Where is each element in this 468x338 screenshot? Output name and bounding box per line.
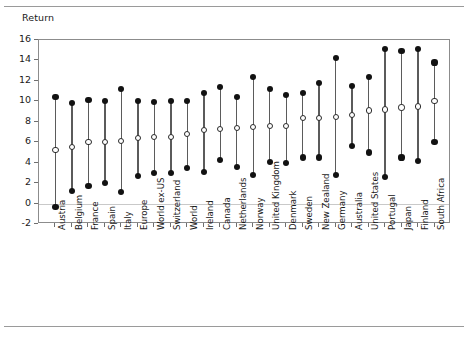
marker-mid[interactable] <box>184 131 190 137</box>
marker-mid[interactable] <box>366 107 372 113</box>
x-tick <box>219 223 220 227</box>
x-tick <box>335 223 336 227</box>
marker-low[interactable] <box>382 174 388 180</box>
marker-mid[interactable] <box>283 123 289 129</box>
marker-mid[interactable] <box>135 135 141 141</box>
marker-mid[interactable] <box>85 139 91 145</box>
range-connector-line <box>384 49 385 177</box>
marker-mid[interactable] <box>102 139 108 145</box>
x-tick <box>203 223 204 227</box>
x-tick <box>71 223 72 227</box>
x-tick <box>318 223 319 227</box>
x-tick <box>401 223 402 227</box>
marker-mid[interactable] <box>201 127 207 133</box>
x-tick <box>384 223 385 227</box>
marker-low[interactable] <box>151 170 157 176</box>
marker-high[interactable] <box>135 98 141 104</box>
marker-high[interactable] <box>184 98 190 104</box>
y-tick-label: 14 <box>5 54 31 64</box>
marker-high[interactable] <box>267 86 273 92</box>
marker-low[interactable] <box>217 157 223 163</box>
marker-high[interactable] <box>349 83 355 89</box>
marker-low[interactable] <box>102 180 108 186</box>
marker-mid[interactable] <box>349 112 355 118</box>
marker-mid[interactable] <box>382 106 388 112</box>
marker-mid[interactable] <box>267 123 273 129</box>
marker-mid[interactable] <box>415 103 421 109</box>
x-tick <box>302 223 303 227</box>
marker-high[interactable] <box>217 84 223 90</box>
x-tick <box>351 223 352 227</box>
marker-mid[interactable] <box>151 134 157 140</box>
range-connector-line <box>302 93 303 157</box>
x-tick <box>137 223 138 227</box>
marker-low[interactable] <box>283 160 289 166</box>
marker-low[interactable] <box>333 172 339 178</box>
marker-high[interactable] <box>234 94 240 100</box>
marker-high[interactable] <box>69 100 75 106</box>
marker-low[interactable] <box>201 169 207 175</box>
marker-low[interactable] <box>52 204 58 210</box>
marker-low[interactable] <box>267 159 273 165</box>
marker-mid[interactable] <box>333 114 339 120</box>
marker-low[interactable] <box>300 154 306 160</box>
x-tick <box>153 223 154 227</box>
marker-low[interactable] <box>431 139 437 145</box>
marker-high[interactable] <box>250 74 256 80</box>
marker-low[interactable] <box>415 158 421 164</box>
marker-mid[interactable] <box>168 134 174 140</box>
x-tick <box>186 223 187 227</box>
y-tick-label: 2 <box>5 177 31 187</box>
marker-low[interactable] <box>184 165 190 171</box>
marker-high[interactable] <box>151 99 157 105</box>
marker-high[interactable] <box>283 92 289 98</box>
marker-mid[interactable] <box>217 126 223 132</box>
marker-low[interactable] <box>250 172 256 178</box>
y-tick-label: 6 <box>5 136 31 146</box>
marker-high[interactable] <box>366 74 372 80</box>
marker-mid[interactable] <box>52 147 58 153</box>
marker-mid[interactable] <box>398 104 404 110</box>
marker-low[interactable] <box>398 154 404 160</box>
y-tick-label: 12 <box>5 75 31 85</box>
marker-high[interactable] <box>168 98 174 104</box>
marker-high[interactable] <box>415 46 421 52</box>
marker-high[interactable] <box>201 90 207 96</box>
x-tick <box>368 223 369 227</box>
marker-high[interactable] <box>118 86 124 92</box>
marker-mid[interactable] <box>316 115 322 121</box>
marker-high[interactable] <box>333 55 339 61</box>
x-tick <box>87 223 88 227</box>
marker-low[interactable] <box>234 164 240 170</box>
marker-low[interactable] <box>69 188 75 194</box>
marker-low[interactable] <box>118 189 124 195</box>
marker-low[interactable] <box>85 183 91 189</box>
marker-mid[interactable] <box>250 124 256 130</box>
x-tick <box>104 223 105 227</box>
marker-high[interactable] <box>85 97 91 103</box>
marker-high[interactable] <box>52 94 58 100</box>
marker-low[interactable] <box>135 173 141 179</box>
marker-low[interactable] <box>168 170 174 176</box>
x-tick <box>170 223 171 227</box>
marker-low[interactable] <box>316 154 322 160</box>
marker-mid[interactable] <box>234 125 240 131</box>
range-connector-line <box>368 77 369 153</box>
marker-mid[interactable] <box>69 144 75 150</box>
marker-low[interactable] <box>366 149 372 155</box>
marker-mid[interactable] <box>431 98 437 104</box>
marker-high[interactable] <box>102 98 108 104</box>
marker-mid[interactable] <box>118 138 124 144</box>
x-tick <box>417 223 418 227</box>
marker-high[interactable] <box>300 90 306 96</box>
marker-high[interactable] <box>431 59 437 65</box>
marker-high[interactable] <box>316 80 322 86</box>
range-connector-line <box>220 87 221 160</box>
marker-mid[interactable] <box>300 115 306 121</box>
marker-high[interactable] <box>382 46 388 52</box>
marker-low[interactable] <box>349 143 355 149</box>
bottom-divider-rule <box>4 326 464 327</box>
y-tick-label: 0 <box>5 198 31 208</box>
marker-high[interactable] <box>398 48 404 54</box>
y-tick-label: 16 <box>5 34 31 44</box>
